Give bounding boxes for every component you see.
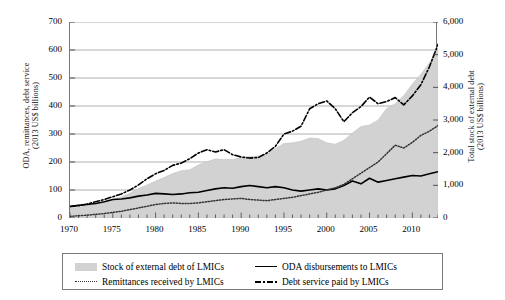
y-axis-left-tick-label: 100 — [22, 184, 62, 194]
legend-swatch-solid-line-icon — [255, 262, 277, 271]
y-axis-left-tick-label: 300 — [22, 128, 62, 138]
x-axis-tick-label: 1970 — [49, 224, 89, 234]
legend-label-1: ODA disbursements to LMICs — [282, 262, 397, 272]
y-axis-right-tick-label: 1,000 — [443, 179, 487, 189]
y-axis-right-tick-label: 0 — [443, 212, 487, 222]
y-axis-left-tick-label: 400 — [22, 100, 62, 110]
chart-legend: Stock of external debt of LMICs Remittan… — [62, 253, 443, 290]
x-axis-tick-label: 1990 — [220, 224, 260, 234]
x-axis-tick-label: 2005 — [349, 224, 389, 234]
plot-area — [69, 22, 437, 218]
y-axis-left-tick-label: 700 — [22, 16, 62, 26]
legend-item-oda-disbursements: ODA disbursements to LMICs — [255, 262, 397, 272]
legend-item-stock-of-external-debt: Stock of external debt of LMICs — [75, 262, 224, 272]
plot-svg — [70, 22, 438, 218]
legend-item-remittances: Remittances received by LMICs — [75, 277, 224, 287]
y-axis-right-tick-label: 4,000 — [443, 81, 487, 91]
legend-swatch-dotted-line-icon — [75, 277, 97, 286]
y-axis-left-tick-label: 500 — [22, 72, 62, 82]
y-axis-left-tick-label: 200 — [22, 156, 62, 166]
x-axis-tick-label: 1980 — [135, 224, 175, 234]
legend-swatch-dashdot-line-icon — [255, 277, 277, 286]
x-axis-tick-label: 2000 — [306, 224, 346, 234]
legend-swatch-area-icon — [75, 263, 97, 271]
legend-label-0: Stock of external debt of LMICs — [102, 262, 224, 272]
legend-label-2: Remittances received by LMICs — [102, 277, 224, 287]
y-axis-right-tick-label: 2,000 — [443, 147, 487, 157]
left-axis-title: ODA, remittances, debt service (2013 US$… — [22, 28, 41, 203]
y-axis-left-tick-label: 0 — [22, 212, 62, 222]
x-axis-tick-label: 1985 — [177, 224, 217, 234]
y-axis-left-tick-label: 600 — [22, 44, 62, 54]
x-axis-tick-label: 2010 — [391, 224, 431, 234]
legend-label-3: Debt service paid by LMICs — [282, 277, 389, 287]
x-axis-tick-label: 1995 — [263, 224, 303, 234]
legend-item-debt-service: Debt service paid by LMICs — [255, 277, 389, 287]
y-axis-right-tick-label: 3,000 — [443, 114, 487, 124]
chart-figure: ODA, remittances, debt service (2013 US$… — [0, 0, 505, 300]
x-axis-tick-label: 1975 — [92, 224, 132, 234]
y-axis-right-tick-label: 6,000 — [443, 16, 487, 26]
y-axis-right-tick-label: 5,000 — [443, 49, 487, 59]
